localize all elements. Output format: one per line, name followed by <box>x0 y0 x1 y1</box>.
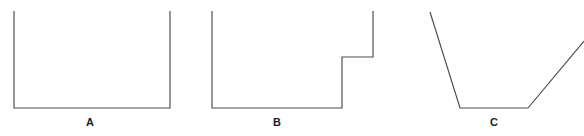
vessel-label-a: A <box>75 116 105 128</box>
vessel-label-c: C <box>479 116 509 128</box>
vessel-shape-a <box>14 11 170 108</box>
vessel-shape-c <box>430 12 584 108</box>
vessel-shape-b <box>212 11 373 108</box>
vessel-label-b: B <box>262 116 292 128</box>
figure-container: A B C <box>0 0 584 136</box>
